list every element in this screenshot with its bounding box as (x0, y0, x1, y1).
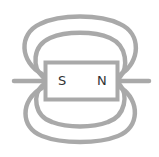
south-pole-label: S (58, 74, 66, 87)
bar-magnet-diagram: S N (0, 0, 159, 157)
north-pole-label: N (97, 74, 107, 87)
field-lines-svg (0, 0, 159, 157)
